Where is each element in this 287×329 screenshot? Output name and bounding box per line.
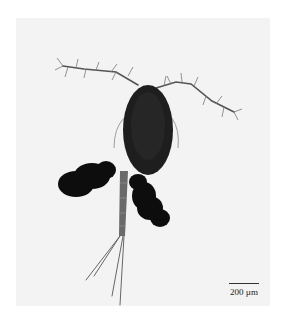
- scale-bar-label: 200 µm: [229, 287, 259, 297]
- copepod-illustration: [16, 18, 270, 306]
- scale-bar: 200 µm: [229, 283, 259, 297]
- scale-bar-line: [229, 283, 259, 284]
- copepod-micrograph: [16, 18, 270, 306]
